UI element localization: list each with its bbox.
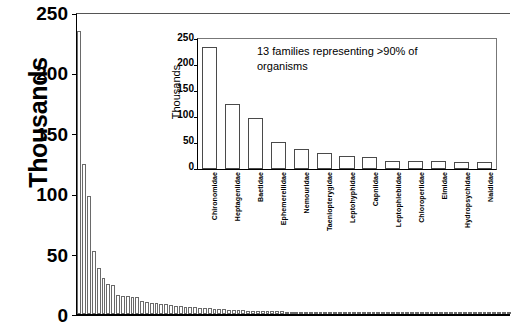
main-bar [213,309,217,314]
main-bar [507,312,511,314]
main-bar [92,251,96,314]
main-ytick-200: 200 [8,64,68,83]
main-ytick-0: 0 [8,306,68,325]
inset-bar [271,142,286,169]
main-bar [434,312,438,314]
inset-bar [294,149,309,169]
inset-x-axis-labels: ChironomidaeHeptageniidaeBaetidaeEphemer… [197,172,497,256]
main-bar [155,303,159,314]
main-ytick-100: 100 [8,185,68,204]
main-bar [386,312,390,314]
main-bar [169,305,173,314]
main-bar [401,312,405,314]
main-bar [348,312,352,314]
inset-x-label: Capniidae [372,172,379,206]
main-bar [328,312,332,314]
main-bar [82,164,86,315]
inset-annotation-text: 13 families representing >90% of organis… [257,44,435,74]
main-bar [444,312,448,314]
main-bar [492,312,496,314]
main-bar [145,302,149,314]
main-bar [420,312,424,314]
main-bar [121,296,125,314]
main-bar [425,312,429,314]
main-bar [111,285,115,314]
main-bar [314,312,318,314]
main-bar [439,312,443,314]
main-bar [483,312,487,314]
main-bar [116,295,120,314]
inset-x-label: Ephemerellidae [280,172,287,225]
inset-ytick-250: 250 [160,33,194,43]
main-bar [188,307,192,314]
inset-x-label: Chironomidae [211,172,218,220]
figure: Thousands 250 200 150 100 50 0 Thousands… [0,0,516,330]
main-bar [222,309,226,314]
inset-x-label: Nemouridae [303,172,310,213]
main-bar [454,312,458,314]
main-bar [261,311,265,314]
inset-bar [202,47,217,169]
inset-bar [317,153,332,169]
main-bar [502,312,506,314]
main-bar [256,311,260,314]
main-bar [415,312,419,314]
main-bar [290,312,294,314]
main-bar [391,312,395,314]
main-bar [294,312,298,314]
main-ytick-250: 250 [8,4,68,23]
inset-x-label: Hydropsychidae [464,172,471,228]
main-bar [164,304,168,314]
main-bar [266,311,270,314]
inset-bar [431,161,446,169]
inset-x-label: Elmidae [441,172,448,200]
main-ytick-150: 150 [8,125,68,144]
inset-bar [225,104,240,169]
inset-ytick-200: 200 [160,58,194,68]
main-bar [458,312,462,314]
main-bar [131,297,135,314]
main-bar [275,311,279,314]
main-bar [343,312,347,314]
inset-y-axis-ticks: 250 200 150 100 50 0 [160,28,194,174]
main-bar [227,310,231,314]
main-bar [198,308,202,314]
main-bar [396,312,400,314]
inset-bar [385,161,400,169]
main-bar [135,297,139,314]
main-y-axis-ticks: 250 200 150 100 50 0 [8,0,68,330]
main-bar [179,306,183,314]
main-bar [410,312,414,314]
main-bar [376,312,380,314]
main-bar [87,196,91,314]
inset-ytick-150: 150 [160,84,194,94]
main-bar [367,312,371,314]
main-bar [323,312,327,314]
main-bar [140,301,144,314]
main-bar [333,312,337,314]
inset-x-label: Naididae [487,172,494,202]
main-ytick-50: 50 [8,246,68,265]
main-bar [304,312,308,314]
main-bar [449,312,453,314]
inset-x-label: Heptageniidae [234,172,241,221]
inset-x-label: Chloroperlidae [418,172,425,223]
main-bar [208,308,212,314]
main-bar [463,312,467,314]
main-bar [150,303,154,314]
main-bar [106,284,110,314]
main-bar [251,311,255,314]
main-bar [237,310,241,314]
inset-bar [362,157,377,169]
main-bar [193,307,197,314]
main-bar [405,312,409,314]
inset-ytick-0: 0 [160,162,194,172]
main-bar [468,312,472,314]
main-axis-tick [72,315,77,316]
inset-bar [339,156,354,169]
main-bar [478,312,482,314]
main-bar [319,312,323,314]
main-bar [246,311,250,314]
inset-axis-tick [194,169,198,170]
main-bar [338,312,342,314]
